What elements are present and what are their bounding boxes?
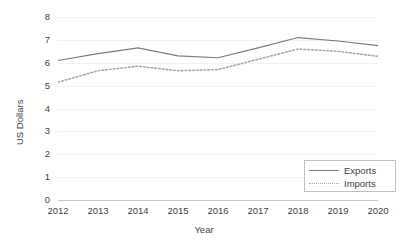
legend-item-imports: Imports — [309, 177, 391, 190]
x-tick-label: 2019 — [318, 205, 358, 216]
y-tick-label: 3 — [32, 126, 50, 136]
y-tick-label: 4 — [32, 104, 50, 114]
x-tick-label: 2017 — [238, 205, 278, 216]
x-axis-title: Year — [0, 224, 408, 235]
x-tick-label: 2015 — [158, 205, 198, 216]
y-tick-label: 7 — [32, 35, 50, 45]
x-tick-label: 2012 — [38, 205, 78, 216]
x-tick-label: 2020 — [358, 205, 398, 216]
legend-item-exports: Exports — [309, 164, 391, 177]
series-line-exports — [58, 38, 378, 61]
x-tick-label: 2014 — [118, 205, 158, 216]
y-axis-title: US Dollars — [14, 100, 25, 145]
line-chart: US Dollars 012345678 2012201320142015201… — [0, 0, 408, 244]
x-tick-label: 2018 — [278, 205, 318, 216]
y-tick-label: 5 — [32, 81, 50, 91]
legend-swatch-dotted-icon — [309, 179, 339, 189]
y-tick-label: 8 — [32, 12, 50, 22]
legend-label-imports: Imports — [344, 178, 376, 189]
legend-swatch-solid-icon — [309, 166, 339, 176]
y-tick-label: 2 — [32, 149, 50, 159]
chart-legend: Exports Imports — [304, 160, 396, 192]
x-tick-label: 2016 — [198, 205, 238, 216]
y-tick-label: 1 — [32, 172, 50, 182]
y-tick-label: 6 — [32, 58, 50, 68]
y-tick-label: 0 — [32, 195, 50, 205]
legend-label-exports: Exports — [344, 165, 376, 176]
series-line-imports — [58, 49, 378, 82]
x-tick-label: 2013 — [78, 205, 118, 216]
x-axis-line — [58, 200, 378, 201]
